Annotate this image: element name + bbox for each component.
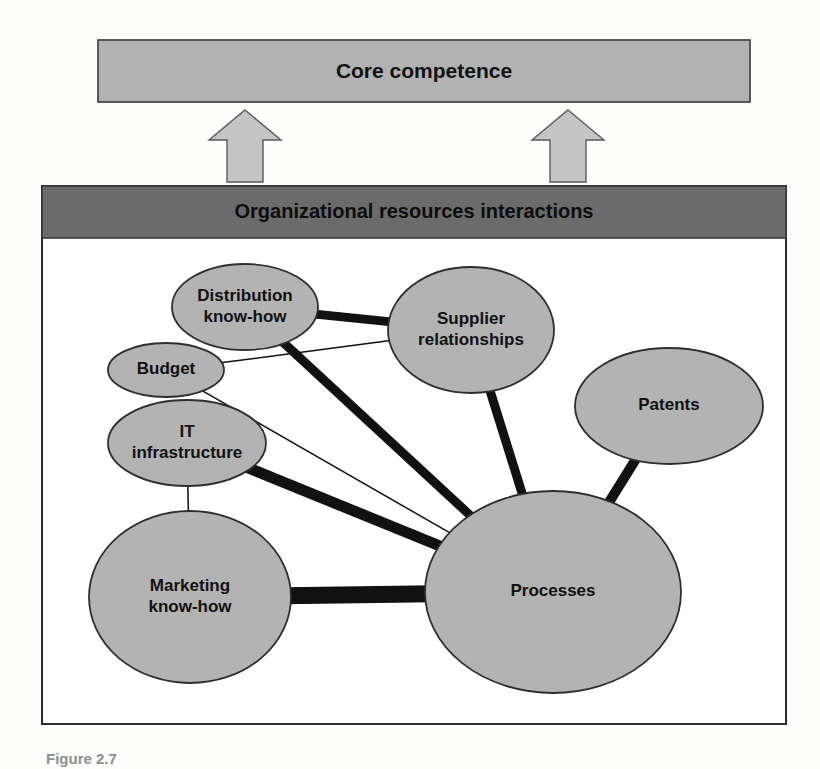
node-it[interactable]: ITinfrastructure	[108, 400, 266, 486]
left-arrow	[209, 110, 281, 182]
node-label-marketing: know-how	[148, 597, 232, 616]
node-supplier[interactable]: Supplierrelationships	[388, 267, 554, 393]
core-competence-label: Core competence	[336, 59, 512, 82]
edge-marketing-processes	[285, 594, 433, 596]
node-patents[interactable]: Patents	[575, 348, 763, 464]
node-label-processes: Processes	[510, 581, 595, 600]
node-distribution[interactable]: Distributionknow-how	[172, 264, 318, 350]
node-label-distribution: Distribution	[197, 286, 292, 305]
node-label-distribution: know-how	[203, 307, 287, 326]
node-label-it: infrastructure	[132, 443, 243, 462]
banner-label: Organizational resources interactions	[235, 200, 594, 222]
node-label-supplier: relationships	[418, 330, 524, 349]
node-label-patents: Patents	[638, 395, 699, 414]
node-budget[interactable]: Budget	[108, 343, 224, 397]
core-competence-diagram: Core competence Organizational resources…	[0, 0, 820, 769]
node-marketing[interactable]: Marketingknow-how	[89, 511, 291, 683]
upward-arrows-group	[209, 110, 604, 182]
core-competence-bar: Core competence	[98, 40, 750, 102]
right-arrow	[532, 110, 604, 182]
node-label-it: IT	[179, 422, 195, 441]
node-label-budget: Budget	[137, 359, 196, 378]
caption-label: Figure 2.7	[46, 750, 117, 767]
node-label-supplier: Supplier	[437, 309, 505, 328]
node-processes[interactable]: Processes	[425, 491, 681, 693]
figure-page: Core competence Organizational resources…	[0, 0, 820, 769]
node-label-marketing: Marketing	[150, 576, 230, 595]
organizational-resources-banner: Organizational resources interactions	[42, 186, 786, 238]
figure-caption: Figure 2.7	[46, 750, 117, 767]
